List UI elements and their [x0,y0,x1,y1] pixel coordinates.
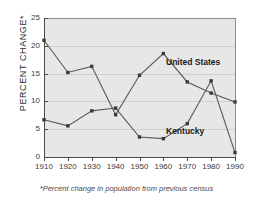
data-point-marker [66,71,69,74]
line-united-states [44,40,235,115]
series-label-united-states: United States [166,57,220,67]
data-point-marker [162,137,165,140]
series-label-kentucky: Kentucky [166,126,204,136]
data-point-marker [138,74,141,77]
data-point-marker [162,52,165,55]
data-point-marker [42,39,45,42]
series-lines [0,0,253,203]
markers-kentucky [42,79,236,154]
data-point-marker [186,80,189,83]
data-point-marker [233,151,236,154]
chart-footnote: *Percent change in population from previ… [0,184,253,193]
markers-united-states [42,39,236,117]
data-point-marker [90,109,93,112]
data-point-marker [114,106,117,109]
line-kentucky [44,81,235,153]
data-point-marker [42,118,45,121]
data-point-marker [209,91,212,94]
data-point-marker [90,65,93,68]
data-point-marker [66,124,69,127]
data-point-marker [209,79,212,82]
data-point-marker [233,100,236,103]
data-point-marker [114,113,117,116]
data-point-marker [186,122,189,125]
population-change-line-chart: 0510152025 19101920193019401950196019701… [0,0,253,203]
data-point-marker [138,135,141,138]
